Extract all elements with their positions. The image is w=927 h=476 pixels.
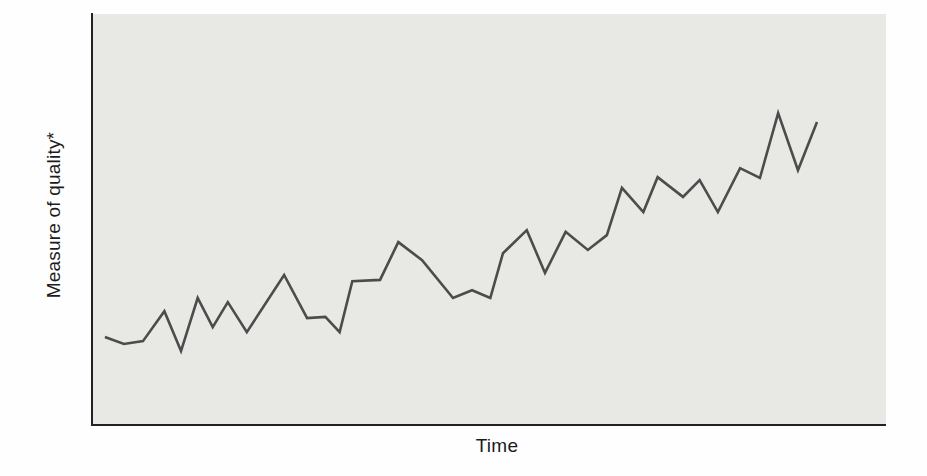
x-axis-line: [91, 424, 886, 426]
quality-trend-line: [105, 113, 817, 351]
quality-over-time-chart: Measure of quality* Time: [0, 0, 927, 476]
x-axis-label: Time: [476, 435, 519, 457]
line-chart-canvas: [93, 14, 886, 425]
y-axis-label: Measure of quality*: [43, 132, 65, 298]
y-axis-line: [91, 13, 93, 426]
plot-area: [93, 14, 886, 425]
